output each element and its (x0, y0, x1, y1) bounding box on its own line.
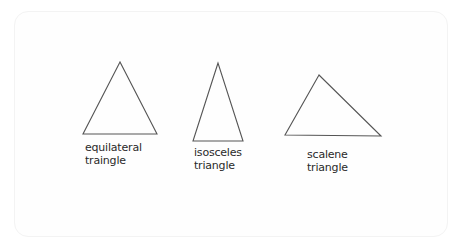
isosceles-label: isosceles triangle (194, 146, 242, 172)
scalene-label: scalene triangle (307, 148, 348, 174)
isosceles-label-line1: isosceles (194, 146, 242, 159)
equilateral-triangle (83, 62, 157, 134)
equilateral-label-line2: traingle (85, 154, 142, 167)
equilateral-label: equilateral traingle (85, 141, 142, 167)
isosceles-label-line2: triangle (194, 159, 242, 172)
isosceles-triangle (193, 63, 243, 141)
scalene-label-line2: triangle (307, 161, 348, 174)
scalene-label-line1: scalene (307, 148, 348, 161)
triangles-diagram (0, 0, 466, 247)
equilateral-label-line1: equilateral (85, 141, 142, 154)
scalene-triangle (285, 75, 381, 136)
